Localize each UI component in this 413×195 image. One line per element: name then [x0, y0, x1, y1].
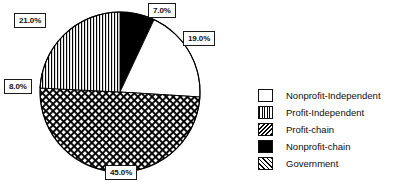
legend-item-government: Government	[258, 155, 410, 172]
legend-item-profit-independent: Profit-Independent	[258, 104, 410, 121]
legend-swatch-crosshatch-icon	[258, 123, 273, 136]
legend-label-profit-chain: Profit-chain	[286, 124, 334, 135]
legend-swatch-vertical-lines-icon	[258, 106, 273, 119]
pie-label-nonprofit-chain: 7.0%	[148, 3, 176, 18]
legend-label-profit-independent: Profit-Independent	[286, 107, 364, 118]
pie-label-nonprofit-independent: 19.0%	[183, 31, 215, 46]
pie-label-profit-chain: 45.0%	[105, 165, 137, 180]
legend-swatch-solid-black-icon	[258, 140, 273, 153]
pie-label-profit-independent: 21.0%	[14, 13, 46, 28]
legend-label-nonprofit-independent: Nonprofit-Independent	[286, 90, 381, 101]
pie-chart-figure: 7.0% 19.0% 45.0% 8.0% 21.0% Nonprofit-In…	[0, 0, 413, 195]
pie-plot-area: 7.0% 19.0% 45.0% 8.0% 21.0%	[0, 0, 245, 180]
legend-label-nonprofit-chain: Nonprofit-chain	[286, 141, 350, 152]
chart-legend: Nonprofit-Independent Profit-Independent…	[258, 87, 410, 172]
pie-label-government: 8.0%	[4, 79, 32, 94]
legend-swatch-blank-icon	[258, 89, 273, 102]
legend-item-nonprofit-chain: Nonprofit-chain	[258, 138, 410, 155]
pie-slice-profit-independent	[40, 12, 120, 92]
legend-item-nonprofit-independent: Nonprofit-Independent	[258, 87, 410, 104]
legend-swatch-diagonal-lines-icon	[258, 157, 273, 170]
legend-item-profit-chain: Profit-chain	[258, 121, 410, 138]
legend-label-government: Government	[286, 158, 338, 169]
